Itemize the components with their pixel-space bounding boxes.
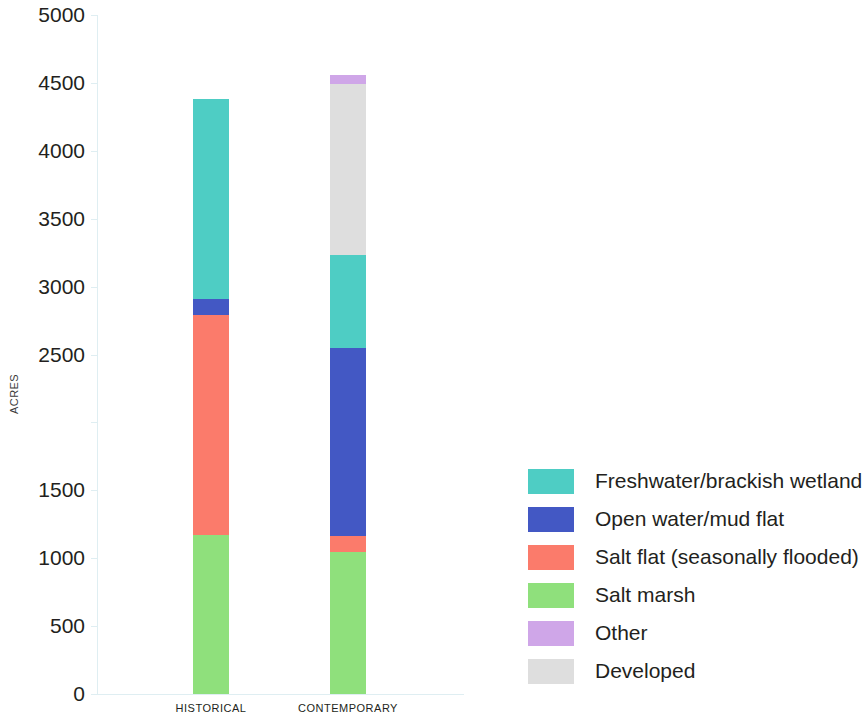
bar-contemporary <box>330 15 366 694</box>
y-axis-line <box>97 15 98 694</box>
y-axis-tick-label: 0 <box>73 682 85 706</box>
y-axis-tick-label: 500 <box>50 614 85 638</box>
y-axis-tick <box>91 355 97 356</box>
y-axis-tick <box>91 626 97 627</box>
bar-segment <box>330 536 366 552</box>
bar-segment <box>330 255 366 348</box>
legend-item-label: Open water/mud flat <box>595 507 784 531</box>
y-axis-tick <box>91 83 97 84</box>
legend-item-label: Other <box>595 621 648 645</box>
legend-swatch-icon <box>528 621 574 646</box>
y-axis-tick <box>91 219 97 220</box>
legend-swatch-icon <box>528 545 574 570</box>
bar-segment <box>193 535 229 694</box>
y-axis-tick <box>91 490 97 491</box>
legend-item-label: Freshwater/brackish wetland <box>595 469 862 493</box>
chart-legend: Freshwater/brackish wetlandOpen water/mu… <box>528 462 862 690</box>
y-axis-tick-label: 4500 <box>38 71 85 95</box>
y-axis-tick-label: 2500 <box>38 343 85 367</box>
y-axis-tick-label: 1000 <box>38 546 85 570</box>
legend-item: Salt flat (seasonally flooded) <box>528 538 862 576</box>
plot-area: 050010001500250030003500400045005000 HIS… <box>97 15 464 694</box>
legend-item: Open water/mud flat <box>528 500 862 538</box>
legend-swatch-icon <box>528 583 574 608</box>
y-axis-tick <box>91 151 97 152</box>
legend-item: Developed <box>528 652 862 690</box>
y-axis-tick <box>91 558 97 559</box>
bar-segment <box>193 99 229 299</box>
y-axis-tick-label: 3000 <box>38 275 85 299</box>
legend-item: Freshwater/brackish wetland <box>528 462 862 500</box>
stacked-bar-chart: ACRES 0500100015002500300035004000450050… <box>0 0 866 721</box>
bar-segment <box>193 299 229 315</box>
y-axis-tick-label: 1500 <box>38 478 85 502</box>
legend-item-label: Salt marsh <box>595 583 695 607</box>
x-axis-label-historical: HISTORICAL <box>176 702 247 714</box>
bar-segment <box>193 315 229 535</box>
bar-segment <box>330 84 366 255</box>
legend-item: Other <box>528 614 862 652</box>
legend-swatch-icon <box>528 469 574 494</box>
bar-segment <box>330 348 366 535</box>
y-axis-tick <box>91 694 97 695</box>
legend-item-label: Developed <box>595 659 695 683</box>
legend-item-label: Salt flat (seasonally flooded) <box>595 545 859 569</box>
y-axis-tick-label: 4000 <box>38 139 85 163</box>
bar-historical <box>193 15 229 694</box>
legend-swatch-icon <box>528 507 574 532</box>
legend-swatch-icon <box>528 659 574 684</box>
y-axis-tick <box>91 422 97 423</box>
bar-segment <box>330 552 366 694</box>
y-axis-tick-label: 5000 <box>38 3 85 27</box>
y-axis-tick-label: 3500 <box>38 207 85 231</box>
y-axis-tick <box>91 15 97 16</box>
x-axis-label-contemporary: CONTEMPORARY <box>298 702 398 714</box>
x-axis-line <box>97 694 464 695</box>
y-axis-title: ACRES <box>8 364 20 424</box>
y-axis-tick <box>91 287 97 288</box>
bar-segment <box>330 75 366 85</box>
legend-item: Salt marsh <box>528 576 862 614</box>
